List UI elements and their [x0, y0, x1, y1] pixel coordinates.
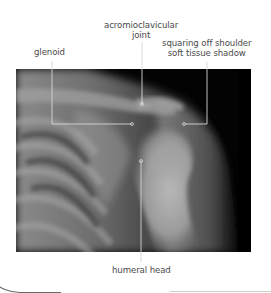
- leader-line-glenoid: [52, 61, 131, 124]
- frame-bottom-edge: [170, 291, 271, 292]
- leader-line-squaring-off: [185, 62, 207, 124]
- marker-squaring-off: [183, 123, 186, 126]
- frame-rounded-corner: [0, 200, 61, 293]
- marker-glenoid: [131, 123, 134, 126]
